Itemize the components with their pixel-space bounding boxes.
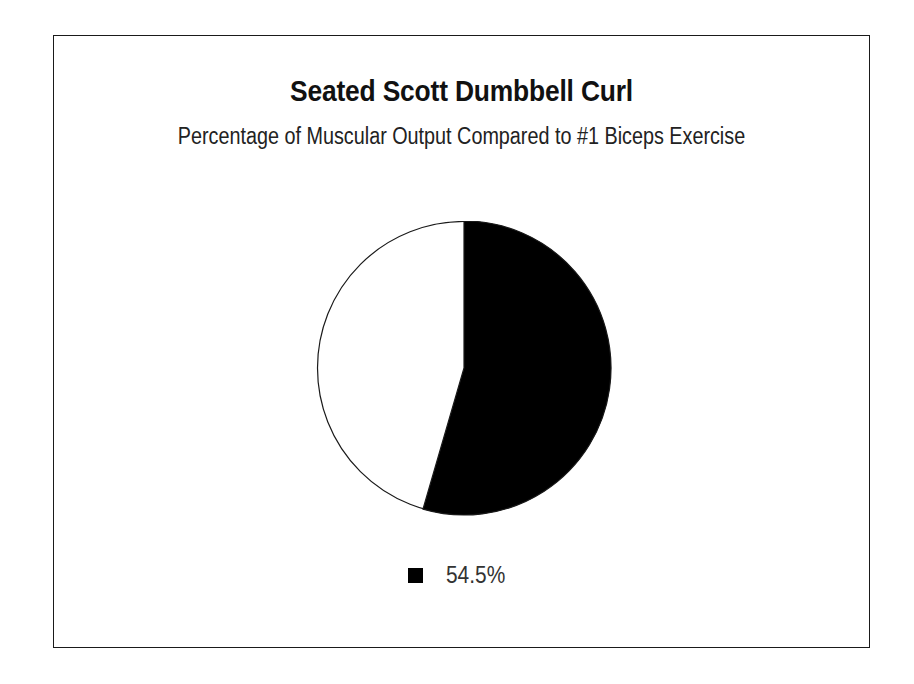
chart-title: Seated Scott Dumbbell Curl [103, 74, 820, 108]
chart-subtitle: Percentage of Muscular Output Compared t… [111, 123, 812, 150]
chart-legend: 54.5% [54, 561, 869, 589]
pie-chart-plot-area [314, 221, 614, 521]
chart-frame: Seated Scott Dumbbell Curl Percentage of… [53, 35, 870, 648]
legend-item-label: 54.5% [446, 561, 505, 589]
legend-item[interactable]: 54.5% [408, 561, 514, 589]
pie-chart-svg [314, 221, 614, 521]
legend-swatch-icon [408, 568, 423, 583]
